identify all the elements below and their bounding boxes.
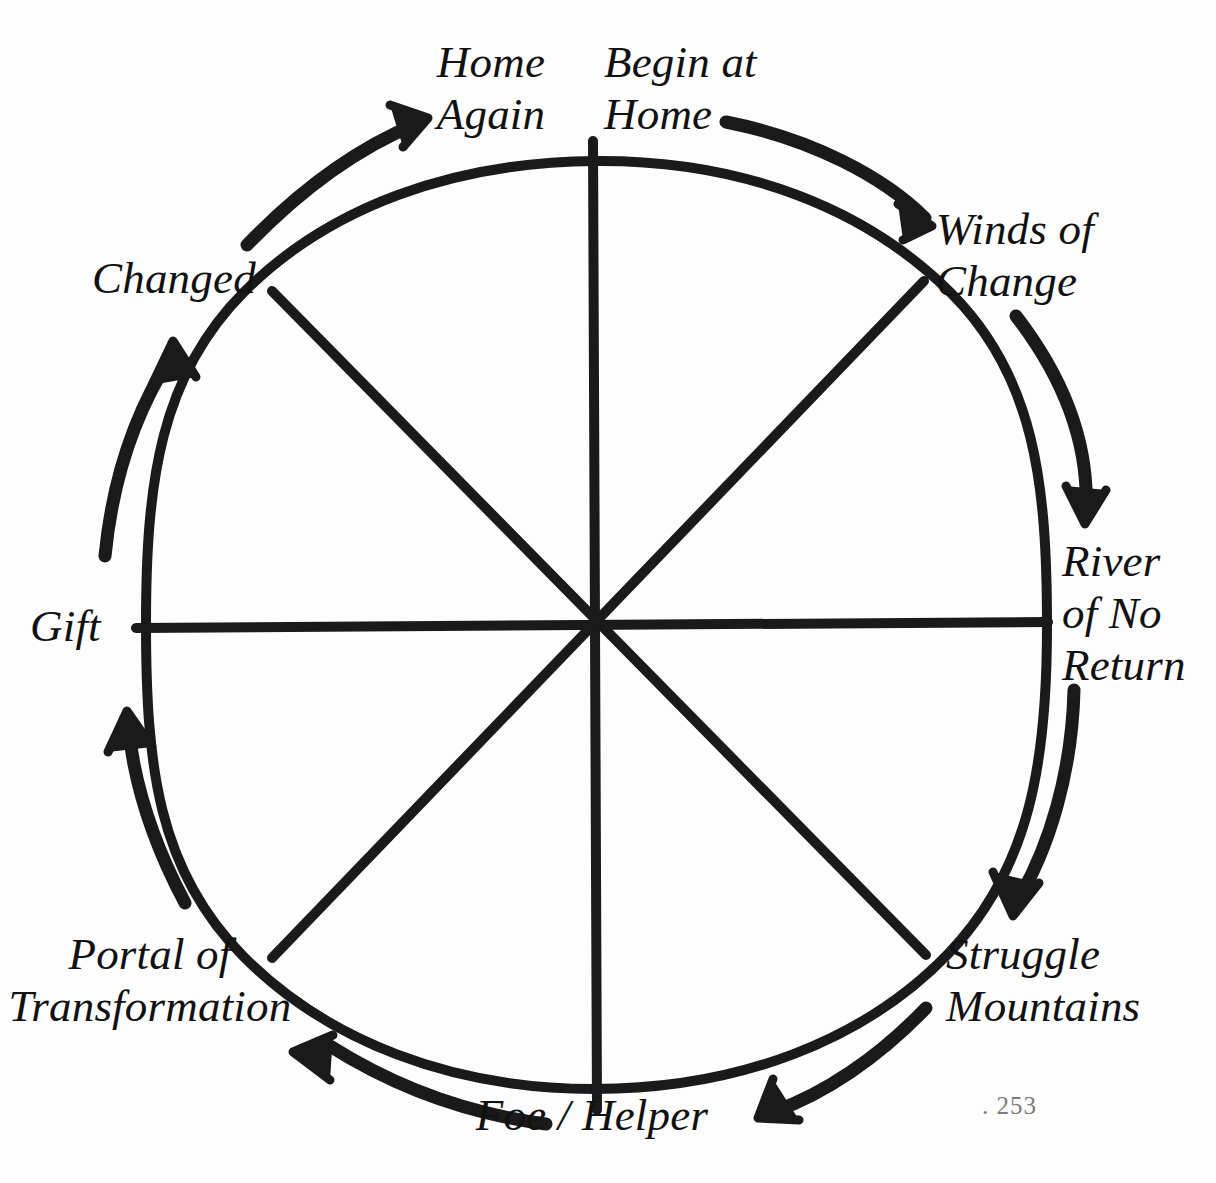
stage-label-winds-of-change: Winds of Change bbox=[936, 203, 1186, 307]
arrow-bottom-right bbox=[758, 1008, 926, 1120]
stage-label-begin-at-home: Begin at Home bbox=[604, 36, 834, 140]
arrow-left-lower bbox=[108, 711, 185, 903]
arrow-bottom-left-head bbox=[293, 1035, 333, 1080]
stage-label-foe-helper: Foe / Helper bbox=[442, 1089, 742, 1141]
stage-label-gift: Gift bbox=[30, 600, 134, 652]
arrow-right-upper-head bbox=[1066, 486, 1106, 524]
page-number: . 253 bbox=[982, 1092, 1037, 1120]
stage-label-river-of-no-return: River of No Return bbox=[1062, 535, 1212, 692]
stage-label-changed: Changed bbox=[92, 252, 282, 304]
diagram-canvas: Home Again Begin at Home Winds of Change… bbox=[0, 0, 1216, 1183]
stage-label-home-again: Home Again bbox=[400, 36, 582, 140]
stage-label-struggle-mountains: Struggle Mountains bbox=[946, 928, 1216, 1032]
stage-label-portal-of-transformation: Portal of Transformation bbox=[6, 928, 294, 1032]
